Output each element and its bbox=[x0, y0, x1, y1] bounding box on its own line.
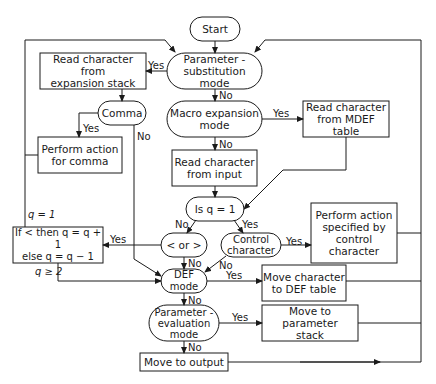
edge-label-q-eq-1: q = 1 bbox=[28, 209, 55, 220]
move-param-stack-node: Move to parameter stack bbox=[262, 305, 358, 341]
edge-label-param-sub-no: No bbox=[219, 90, 233, 101]
perform-control-node: Perform action specified by control char… bbox=[311, 203, 397, 263]
edge-label-comma-no: No bbox=[137, 131, 151, 142]
edge-label-param-sub-yes: Yes bbox=[148, 60, 164, 71]
edge-label-lt-gt-yes: Yes bbox=[110, 234, 126, 245]
edge-label-def-yes: Yes bbox=[226, 270, 242, 281]
edge-label-def-no: No bbox=[188, 295, 202, 306]
edge-label-lt-gt-no: No bbox=[188, 258, 202, 269]
perform-comma-node: Perform action for comma bbox=[38, 137, 122, 173]
edge-label-comma-yes: Yes bbox=[83, 123, 99, 134]
read-input-node: Read character from input bbox=[172, 150, 257, 186]
param-sub-node: Parameter - substitution mode bbox=[167, 53, 262, 89]
read-mdef-node: Read character from MDEF table bbox=[303, 101, 389, 137]
control-char-node: Control character bbox=[221, 233, 281, 257]
move-def-node: Move character to DEF table bbox=[262, 265, 346, 301]
read-exp-stack-node: Read character from expansion stack bbox=[40, 53, 146, 89]
edge-label-is-q1-no: No bbox=[175, 219, 189, 230]
move-output-node: Move to output bbox=[140, 353, 228, 371]
is-q1-node: Is q = 1 bbox=[186, 197, 244, 221]
start-node: Start bbox=[190, 17, 240, 41]
edge-label-param-eval-yes: Yes bbox=[232, 312, 248, 323]
macro-exp-node: Macro expansion mode bbox=[167, 101, 262, 137]
flowchart: Start Parameter - substitution mode Read… bbox=[0, 0, 436, 384]
edge-label-q-ge-2: q ≥ 2 bbox=[35, 266, 62, 277]
edge-label-control-yes: Yes bbox=[286, 236, 302, 247]
if-lt-node: If < then q = q + 1 else q = q − 1 bbox=[13, 227, 103, 263]
edge-label-param-eval-no: No bbox=[188, 342, 202, 353]
comma-node: Comma bbox=[98, 101, 146, 125]
param-eval-node: Parameter - evaluation mode bbox=[149, 305, 219, 341]
edge-label-is-q1-yes: Yes bbox=[242, 219, 258, 230]
edge-label-macro-yes: Yes bbox=[273, 108, 289, 119]
edge-label-macro-no: No bbox=[219, 139, 233, 150]
def-mode-node: DEF mode bbox=[161, 269, 207, 293]
lt-gt-node: < or > bbox=[161, 233, 207, 257]
